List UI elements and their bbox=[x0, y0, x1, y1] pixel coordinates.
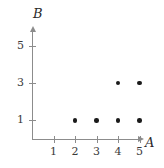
y-tick-label: 1 bbox=[10, 114, 24, 126]
y-tick-mark bbox=[29, 120, 36, 121]
x-tick-mark bbox=[118, 136, 119, 143]
data-point bbox=[137, 81, 142, 86]
data-point bbox=[94, 118, 99, 123]
x-axis-line bbox=[32, 139, 140, 140]
data-point bbox=[116, 118, 121, 123]
x-tick-mark bbox=[97, 136, 98, 143]
x-tick-label: 5 bbox=[133, 146, 147, 158]
x-tick-mark bbox=[54, 136, 55, 143]
y-tick-mark bbox=[29, 46, 36, 47]
data-point bbox=[137, 118, 142, 123]
x-tick-mark bbox=[140, 136, 141, 143]
y-axis-arrow-icon bbox=[30, 26, 36, 32]
data-point bbox=[73, 118, 78, 123]
y-tick-mark bbox=[29, 83, 36, 84]
y-tick-label: 5 bbox=[10, 40, 24, 52]
scatter-plot: A B 12345 135 bbox=[0, 0, 164, 168]
x-tick-mark bbox=[75, 136, 76, 143]
y-axis-line bbox=[32, 31, 33, 140]
x-tick-label: 4 bbox=[111, 146, 125, 158]
y-tick-label: 3 bbox=[10, 77, 24, 89]
data-point bbox=[116, 81, 121, 86]
x-tick-label: 1 bbox=[47, 146, 61, 158]
y-axis-label: B bbox=[33, 7, 43, 21]
x-tick-label: 2 bbox=[68, 146, 82, 158]
x-tick-label: 3 bbox=[90, 146, 104, 158]
